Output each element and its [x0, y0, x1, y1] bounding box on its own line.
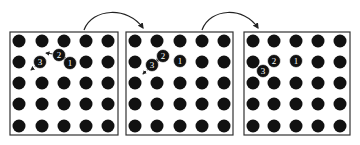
lattice-atom	[80, 77, 93, 90]
lattice-atom	[129, 77, 142, 90]
lattice-atom	[129, 35, 142, 48]
lattice-atom	[247, 56, 260, 69]
lattice-atom	[80, 98, 93, 111]
panel-3: 123	[244, 32, 350, 135]
lattice-atom	[312, 56, 325, 69]
lattice-atom	[196, 98, 209, 111]
lattice-atom	[247, 35, 260, 48]
atom-motion-arrow	[46, 53, 53, 54]
lattice-atom	[80, 120, 93, 133]
lattice-atom	[312, 120, 325, 133]
lattice-atom	[268, 98, 281, 111]
lattice-atom	[196, 77, 209, 90]
lattice-atom	[334, 77, 347, 90]
labeled-atom-3: 3	[146, 59, 159, 72]
lattice-atom	[218, 98, 231, 111]
lattice-atom	[58, 98, 71, 111]
lattice-atom	[174, 120, 187, 133]
lattice-atom	[218, 35, 231, 48]
labeled-atom-2: 2	[157, 50, 170, 63]
atom-label: 2	[161, 51, 166, 61]
lattice-atom	[58, 120, 71, 133]
lattice-atom	[151, 77, 164, 90]
panel-1: 123	[10, 32, 118, 135]
labeled-atom-3: 3	[257, 65, 270, 78]
lattice-atom	[247, 120, 260, 133]
lattice-atom	[129, 56, 142, 69]
lattice-atom	[247, 77, 260, 90]
lattice-atom	[196, 120, 209, 133]
lattice-atom	[312, 77, 325, 90]
labeled-atom-3: 3	[34, 56, 47, 69]
lattice-atom	[13, 77, 26, 90]
arrow-2-to-3-curved-arrow	[202, 12, 258, 30]
lattice-atom	[290, 98, 303, 111]
lattice-atom	[334, 98, 347, 111]
atom-label: 1	[68, 58, 73, 68]
lattice-atom	[102, 35, 115, 48]
atom-label: 3	[150, 60, 155, 70]
lattice-atom	[174, 98, 187, 111]
lattice-atom	[13, 120, 26, 133]
labeled-atom-2: 2	[53, 49, 66, 62]
labeled-atom-1: 1	[290, 55, 303, 68]
labeled-atom-2: 2	[268, 55, 281, 68]
lattice-atom	[102, 77, 115, 90]
lattice-atom	[334, 56, 347, 69]
lattice-atom	[36, 35, 49, 48]
lattice-atom	[36, 98, 49, 111]
lattice-atom	[129, 98, 142, 111]
lattice-atom	[36, 120, 49, 133]
lattice-atom	[290, 120, 303, 133]
atom-label: 2	[57, 50, 62, 60]
lattice-atom	[129, 120, 142, 133]
lattice-atom	[102, 120, 115, 133]
transition-arrows	[84, 12, 258, 30]
atom-label: 1	[294, 56, 299, 66]
arrow-1-to-2-curved-arrow	[84, 12, 143, 30]
lattice-atom	[247, 98, 260, 111]
labeled-atom-1: 1	[64, 57, 77, 70]
atom-label: 3	[261, 66, 266, 76]
lattice-atom	[174, 77, 187, 90]
panel-2: 123	[126, 32, 233, 135]
lattice-atom	[268, 77, 281, 90]
atom-label: 1	[178, 56, 183, 66]
atom-label: 3	[38, 57, 43, 67]
lattice-atom	[80, 56, 93, 69]
diffusion-diagram: 123123123	[0, 0, 360, 145]
lattice-atom	[334, 35, 347, 48]
lattice-atom	[218, 120, 231, 133]
lattice-atom	[13, 35, 26, 48]
lattice-atom	[58, 35, 71, 48]
lattice-atom	[151, 120, 164, 133]
lattice-atom	[151, 98, 164, 111]
lattice-atom	[268, 120, 281, 133]
lattice-panels: 123123123	[10, 32, 350, 135]
lattice-atom	[218, 56, 231, 69]
lattice-atom	[13, 56, 26, 69]
atom-label: 2	[272, 56, 277, 66]
lattice-atom	[268, 35, 281, 48]
lattice-atom	[151, 35, 164, 48]
lattice-atom	[218, 77, 231, 90]
lattice-atom	[312, 98, 325, 111]
lattice-atom	[13, 98, 26, 111]
labeled-atom-1: 1	[174, 55, 187, 68]
lattice-atom	[196, 56, 209, 69]
lattice-atom	[196, 35, 209, 48]
lattice-atom	[36, 77, 49, 90]
lattice-atom	[334, 120, 347, 133]
lattice-atom	[102, 56, 115, 69]
lattice-atom	[80, 35, 93, 48]
lattice-atom	[58, 77, 71, 90]
lattice-atom	[174, 35, 187, 48]
lattice-atom	[102, 98, 115, 111]
lattice-atom	[312, 35, 325, 48]
lattice-atom	[290, 77, 303, 90]
lattice-atom	[290, 35, 303, 48]
diagram-canvas: 123123123	[0, 0, 360, 145]
